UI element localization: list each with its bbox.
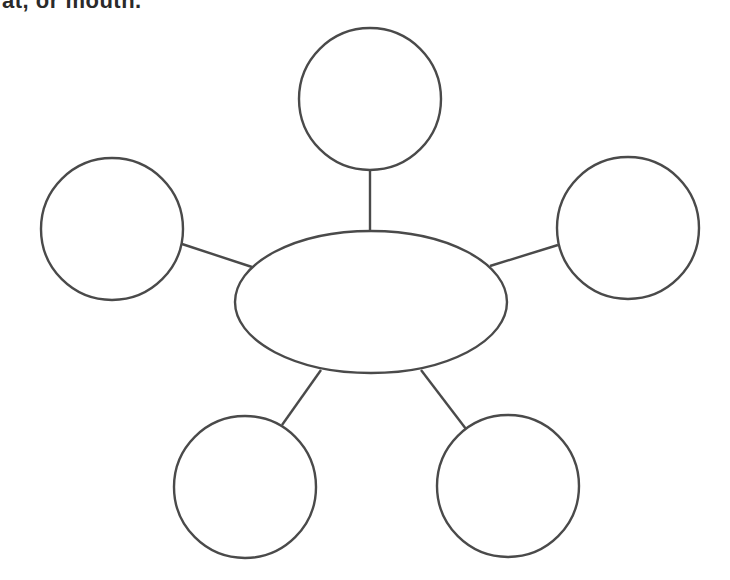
- link-bottom-right: [421, 370, 466, 429]
- link-right: [490, 245, 558, 266]
- node-circle-bottom-right[interactable]: [437, 415, 579, 557]
- center-ellipse[interactable]: [235, 231, 507, 373]
- node-circle-left[interactable]: [41, 158, 183, 300]
- link-left: [182, 244, 252, 267]
- node-circle-right[interactable]: [557, 157, 699, 299]
- node-circle-bottom-left[interactable]: [174, 416, 316, 558]
- link-bottom-left: [282, 370, 321, 425]
- node-circle-top[interactable]: [299, 28, 441, 170]
- concept-web-diagram: [0, 0, 730, 580]
